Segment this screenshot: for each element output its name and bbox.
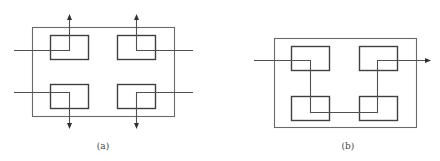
figure-a-wire-top-left xyxy=(14,19,70,51)
figure-a-arrow-down-left-icon xyxy=(67,123,72,129)
diagram-canvas: (a) (b) xyxy=(0,0,440,161)
figure-b: (b) xyxy=(254,39,431,152)
figure-a: (a) xyxy=(14,14,193,151)
figure-a-arrow-down-right-icon xyxy=(134,123,139,129)
figure-a-arrow-up-left-icon xyxy=(67,14,72,20)
figure-b-box-top-right xyxy=(360,47,398,71)
figure-b-enclosure xyxy=(275,39,417,128)
figure-a-enclosure xyxy=(33,28,175,117)
figure-b-serial-wire xyxy=(254,61,426,113)
figure-b-box-bottom-right xyxy=(360,97,398,121)
figure-b-arrow-right-icon xyxy=(425,58,431,63)
figure-a-caption: (a) xyxy=(97,141,109,151)
figure-b-caption: (b) xyxy=(342,141,355,151)
figure-a-wire-top-right xyxy=(137,19,194,51)
figure-a-arrow-up-right-icon xyxy=(134,14,139,20)
